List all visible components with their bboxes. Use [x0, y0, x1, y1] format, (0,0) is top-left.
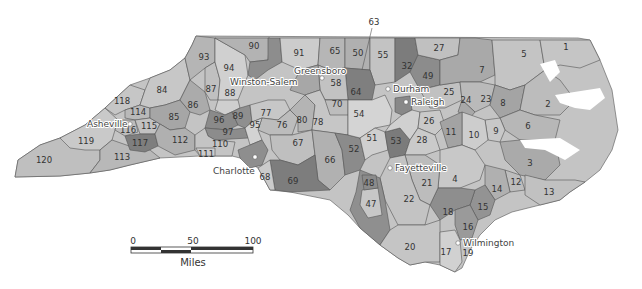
district-label-12: 12	[511, 177, 522, 187]
district-label-22: 22	[404, 194, 415, 204]
district-label-90: 90	[249, 41, 260, 51]
district-label-32: 32	[402, 61, 413, 71]
city-label-raleigh: Raleigh	[411, 97, 445, 107]
district-label-118: 118	[114, 96, 130, 106]
district-label-48: 48	[364, 178, 375, 188]
scale-bar: 0 50 100 Miles	[130, 236, 262, 268]
scale-unit-label: Miles	[180, 257, 206, 268]
district-label-51: 51	[367, 133, 378, 143]
district-label-117: 117	[132, 138, 148, 148]
district-label-70: 70	[332, 99, 343, 109]
district-label-53: 53	[391, 136, 402, 146]
city-label-winston-salem: Winston-Salem	[230, 77, 298, 87]
district-label-78: 78	[313, 117, 324, 127]
district-label-120: 120	[36, 155, 52, 165]
district-label-95: 95	[250, 120, 261, 130]
district-label-80: 80	[297, 115, 308, 125]
district-label-63: 63	[369, 17, 380, 27]
district-label-47: 47	[366, 199, 377, 209]
district-label-97: 97	[223, 127, 234, 137]
city-label-greensboro: Greensboro	[294, 66, 347, 76]
district-label-94: 94	[224, 63, 235, 73]
district-label-112: 112	[172, 135, 188, 145]
district-label-9: 9	[493, 126, 498, 136]
district-label-26: 26	[424, 116, 435, 126]
district-label-96: 96	[214, 115, 225, 125]
district-label-5: 5	[521, 49, 526, 59]
district-label-27: 27	[434, 43, 445, 53]
district-label-52: 52	[349, 144, 360, 154]
district-label-111: 111	[198, 149, 214, 159]
district-label-69: 69	[288, 176, 299, 186]
city-dot-icon	[128, 122, 132, 126]
city-label-asheville: Asheville	[87, 119, 128, 129]
district-label-76: 76	[277, 120, 288, 130]
city-dot-icon	[320, 76, 324, 80]
district-label-119: 119	[78, 136, 94, 146]
district-label-11: 11	[446, 127, 457, 137]
scale-tick-50: 50	[187, 236, 199, 246]
district-label-16: 16	[463, 222, 474, 232]
district-label-65: 65	[330, 46, 341, 56]
district-label-24: 24	[461, 95, 472, 105]
district-label-6: 6	[525, 121, 530, 131]
city-dot-icon	[456, 241, 460, 245]
city-dot-icon	[388, 166, 392, 170]
district-label-85: 85	[169, 112, 180, 122]
district-label-18: 18	[443, 207, 454, 217]
district-label-88: 88	[225, 88, 236, 98]
district-label-15: 15	[478, 202, 489, 212]
district-label-64: 64	[351, 87, 362, 97]
district-label-25: 25	[444, 87, 455, 97]
north-carolina-district-map: 1234567891011121314151617181920212223242…	[0, 0, 642, 289]
district-label-8: 8	[500, 98, 505, 108]
district-label-49: 49	[423, 71, 434, 81]
district-label-93: 93	[199, 52, 210, 62]
district-label-7: 7	[479, 65, 484, 75]
district-label-58: 58	[331, 78, 342, 88]
district-label-91: 91	[294, 48, 305, 58]
city-dot-icon	[404, 100, 408, 104]
city-label-fayetteville: Fayetteville	[395, 163, 447, 173]
district-label-115: 115	[141, 121, 157, 131]
district-label-23: 23	[481, 94, 492, 104]
district-label-84: 84	[157, 85, 168, 95]
city-label-wilmington: Wilmington	[463, 238, 514, 248]
district-label-4: 4	[452, 174, 457, 184]
district-label-77: 77	[261, 108, 272, 118]
district-label-2: 2	[545, 99, 550, 109]
district-label-113: 113	[114, 152, 130, 162]
city-label-charlotte: Charlotte	[213, 166, 255, 176]
city-dot-icon	[386, 87, 390, 91]
district-label-87: 87	[206, 84, 217, 94]
district-label-17: 17	[441, 247, 452, 257]
district-label-14: 14	[492, 184, 503, 194]
scale-tick-100: 100	[244, 236, 261, 246]
city-dot-icon	[253, 155, 257, 159]
district-label-50: 50	[353, 48, 364, 58]
district-label-66: 66	[325, 155, 336, 165]
scale-tick-0: 0	[130, 236, 136, 246]
district-label-28: 28	[417, 135, 428, 145]
district-label-19: 19	[463, 248, 474, 258]
district-label-110: 110	[212, 139, 228, 149]
district-label-20: 20	[405, 242, 416, 252]
district-label-114: 114	[130, 107, 146, 117]
district-label-55: 55	[378, 50, 389, 60]
district-label-21: 21	[422, 178, 433, 188]
district-label-86: 86	[188, 100, 199, 110]
district-label-67: 67	[293, 138, 304, 148]
city-label-durham: Durham	[393, 84, 429, 94]
district-label-68: 68	[260, 172, 271, 182]
district-label-54: 54	[354, 109, 365, 119]
district-label-10: 10	[469, 130, 480, 140]
district-label-89: 89	[233, 111, 244, 121]
district-label-1: 1	[563, 42, 568, 52]
district-label-3: 3	[527, 158, 532, 168]
district-label-13: 13	[544, 187, 555, 197]
